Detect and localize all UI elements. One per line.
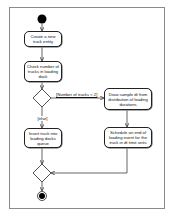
guard-else: [else] bbox=[37, 116, 48, 121]
merge-node-icon bbox=[33, 164, 51, 182]
action-check-trucks: Check number of trucks in loading dock bbox=[24, 61, 62, 82]
decision-node-icon bbox=[33, 89, 51, 107]
initial-node-icon bbox=[38, 15, 47, 24]
action-label: Draw sample dt from distribution of load… bbox=[107, 92, 149, 107]
action-draw-sample: Draw sample dt from distribution of load… bbox=[104, 88, 152, 110]
action-insert-truck: Insert truck into loading docks queue bbox=[24, 128, 62, 148]
action-label: Create a new truck entity bbox=[27, 34, 59, 44]
action-schedule-end: Schedule an end of loading event for the… bbox=[104, 127, 152, 148]
guard-number-of-trucks: [Number of trucks < 2] bbox=[56, 92, 97, 97]
action-label: Check number of trucks in loading dock bbox=[27, 64, 59, 79]
action-label: Insert truck into loading docks queue bbox=[27, 131, 59, 146]
action-create-truck: Create a new truck entity bbox=[24, 31, 62, 47]
action-label: Schedule an end of loading event for the… bbox=[107, 130, 149, 145]
